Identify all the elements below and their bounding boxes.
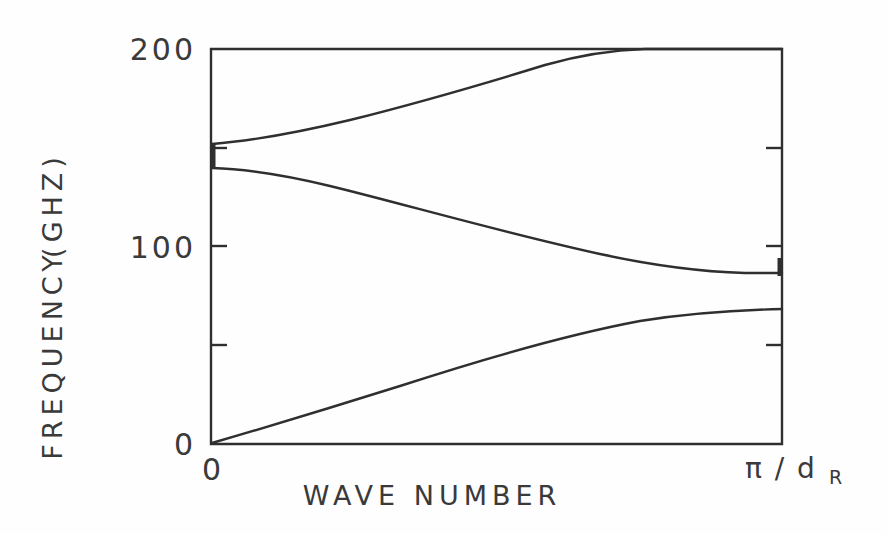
y-axis-ticks-left <box>211 148 227 345</box>
y-axis-ticks-right <box>766 148 782 345</box>
x-tick-label-origin: 0 <box>202 452 224 487</box>
curve-upper-optical-branch <box>212 49 782 144</box>
curve-acoustic-branch <box>212 309 782 443</box>
x-tick-label-zone-boundary: π / d R <box>745 452 844 488</box>
plot-frame <box>211 49 782 444</box>
curve-lower-optical-branch <box>212 168 782 273</box>
y-axis-title: FREQUENCY <box>37 250 68 460</box>
x-axis-title: WAVE NUMBER <box>303 480 562 511</box>
y-tick-label-100: 100 <box>130 230 196 265</box>
dispersion-plot: 200 100 0 (GHZ) FREQUENCY 0 π / d R WAVE… <box>0 0 887 534</box>
figure-canvas: 200 100 0 (GHZ) FREQUENCY 0 π / d R WAVE… <box>0 0 887 534</box>
x-tick-label-zone-boundary-main: π / d <box>745 452 817 485</box>
y-axis-unit-label: (GHZ) <box>37 152 68 258</box>
y-tick-label-200: 200 <box>130 32 196 67</box>
x-tick-label-zone-boundary-subscript: R <box>829 466 844 488</box>
y-tick-label-0: 0 <box>174 427 196 462</box>
plot-border <box>211 49 782 444</box>
